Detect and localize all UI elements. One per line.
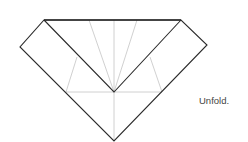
crease-fan-right: [114, 20, 137, 92]
crease-lines: [66, 20, 162, 141]
fold-edges: [20, 20, 207, 141]
instruction-text: Unfold.: [199, 95, 229, 106]
crease-left-diagonal: [66, 57, 77, 92]
inner-v-fold: [44, 20, 181, 92]
crease-fan-left: [89, 20, 114, 92]
origami-diagram: [0, 0, 248, 142]
outer-outline: [20, 20, 207, 141]
crease-right-diagonal: [150, 57, 162, 92]
